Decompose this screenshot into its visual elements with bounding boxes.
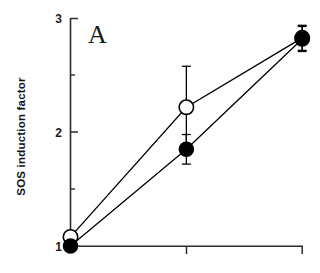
y-tick-label-1: 1	[55, 240, 62, 254]
marker-filled-circle-1	[179, 142, 193, 156]
y-tick-label-2: 2	[55, 126, 62, 140]
marker-filled-circle-0	[64, 239, 78, 253]
figure-panel-a: SOS induction factor A 3 2 1	[0, 0, 320, 273]
y-tick-label-3: 3	[55, 12, 62, 26]
data-series-layer	[63, 25, 309, 253]
marker-filled-circle-2	[295, 32, 309, 46]
plot-area: 3 2 1	[0, 0, 320, 273]
marker-open-circle-1	[179, 100, 193, 114]
